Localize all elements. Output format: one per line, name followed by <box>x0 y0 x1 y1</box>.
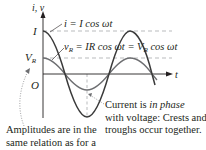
vertical-axis-label: i, v <box>32 2 44 13</box>
origin-label: O <box>31 80 39 91</box>
I-amplitude-label: I <box>33 26 37 37</box>
voltage-equation: vR = IR cos ωt = VR cos ωt <box>64 41 177 56</box>
phase-annotation-line3: troughs occur together. <box>105 124 206 137</box>
voltage-eq-middle: = IR cos ωt = V <box>73 41 144 52</box>
phase-annotation: Current is in phase with voltage: Crests… <box>105 99 206 137</box>
phase-line1-pre: Current is <box>105 99 149 110</box>
voltage-eq-rhs-tail: cos ωt <box>148 41 178 52</box>
current-equation: i = I cos ωt <box>64 18 112 29</box>
amplitude-note-arrowhead-icon <box>25 68 30 74</box>
phase-annotation-line1: Current is in phase <box>105 99 206 112</box>
amplitude-annotation-line1: Amplitudes are in the <box>6 124 97 137</box>
amplitude-note-arc <box>20 71 28 126</box>
VR-main: V <box>25 51 32 63</box>
time-axis-label: t <box>175 69 178 80</box>
VR-sub: R <box>32 57 36 65</box>
amplitude-annotation-line2: same relation as for a <box>6 137 97 150</box>
time-axis-arrow-icon <box>166 72 173 77</box>
amplitude-annotation: Amplitudes are in the same relation as f… <box>6 124 97 149</box>
phase-note-arrowhead-icon <box>88 93 92 97</box>
VR-amplitude-label: VR <box>25 52 36 67</box>
phase-line1-em: in phase <box>149 99 184 110</box>
phase-annotation-line2: with voltage: Crests and <box>105 112 206 125</box>
